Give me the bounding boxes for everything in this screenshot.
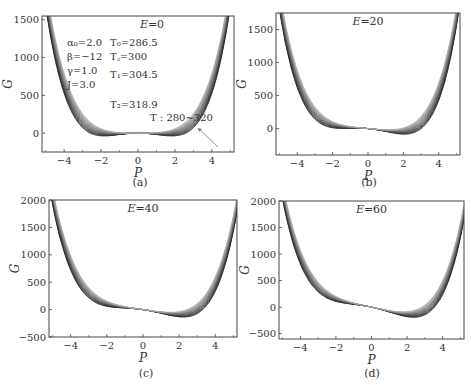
y-tick-label: 0	[33, 128, 39, 139]
figure-canvas: −4−2024050010001500PGE=0(a)α₀=2.0β=−12γ=…	[0, 0, 471, 385]
x-tick-label: −2	[94, 155, 109, 166]
panel-title: E=60	[355, 203, 387, 216]
curve-line	[279, 169, 464, 313]
x-tick-label: −4	[63, 340, 78, 351]
x-tick-label: 0	[140, 340, 146, 351]
x-tick-label: −2	[99, 340, 114, 351]
x-tick-label: 4	[436, 158, 442, 169]
x-tick-label: 0	[368, 342, 374, 353]
y-tick-label: 1000	[21, 249, 46, 260]
temperature-label: T₀=286.5	[110, 37, 158, 48]
curve-line	[49, 172, 237, 312]
y-tick-label: 1500	[21, 222, 46, 233]
x-tick-label: −4	[293, 342, 308, 353]
y-tick-label: 500	[257, 275, 276, 286]
x-tick-label: −2	[329, 342, 344, 353]
x-tick-label: 2	[172, 155, 178, 166]
temperature-label: T₂=318.9	[110, 99, 158, 110]
y-axis-label: G	[238, 265, 252, 275]
x-tick-label: 4	[439, 342, 445, 353]
y-tick-label: 1000	[248, 57, 273, 68]
parameter-label: γ=1.0	[67, 65, 97, 76]
subplot-caption: (d)	[364, 367, 380, 380]
subplot-b: −4−2024050010001500PGE=20(b)	[235, 0, 460, 189]
x-axis-label: P	[138, 351, 148, 365]
y-tick-label: 500	[254, 90, 273, 101]
temperature-range-annotation: T : 280~320	[150, 112, 213, 123]
y-tick-label: 1500	[251, 222, 276, 233]
temperature-label: T₁=304.5	[110, 69, 158, 80]
y-tick-label: 0	[270, 302, 276, 313]
x-tick-label: 4	[209, 155, 215, 166]
plot-frame	[49, 200, 237, 337]
parameter-label: β=−12	[67, 51, 102, 62]
y-tick-label: 500	[27, 277, 46, 288]
y-tick-label: 1000	[251, 249, 276, 260]
parameter-label: α₀=2.0	[67, 37, 102, 48]
y-tick-label: 1500	[14, 14, 39, 25]
x-tick-label: −4	[57, 155, 72, 166]
y-axis-label: G	[1, 79, 15, 89]
panel-title: E=20	[351, 15, 383, 28]
temperature-label: T꜀=300	[110, 51, 147, 62]
subplot-d: −4−2024−5000500100015002000PGE=60(d)	[238, 166, 464, 381]
panel-title: E=0	[139, 18, 164, 31]
x-tick-label: 2	[400, 158, 406, 169]
x-tick-label: −4	[290, 158, 305, 169]
subplot-c: −4−2024−5000500100015002000PGE=40(c)	[8, 170, 237, 380]
subplot-caption: (a)	[132, 176, 147, 189]
subplot-caption: (b)	[361, 176, 377, 189]
curve-line	[279, 168, 464, 313]
y-tick-label: 0	[267, 123, 273, 134]
y-tick-label: −500	[249, 328, 276, 339]
curve-line	[49, 173, 237, 313]
x-tick-label: 2	[404, 342, 410, 353]
y-tick-label: 0	[40, 304, 46, 315]
y-axis-label: G	[235, 79, 249, 89]
y-tick-label: −500	[19, 332, 46, 343]
y-axis-label: G	[8, 263, 22, 273]
x-tick-label: 0	[135, 155, 141, 166]
arrow-line	[198, 128, 218, 147]
plot-frame	[276, 13, 460, 155]
subplot-caption: (c)	[139, 367, 154, 380]
y-tick-label: 2000	[251, 196, 276, 207]
panel-title: E=40	[126, 202, 158, 215]
parameter-label: J=3.0	[66, 79, 95, 90]
y-tick-label: 500	[20, 90, 39, 101]
y-tick-label: 1000	[14, 52, 39, 63]
x-axis-label: P	[366, 353, 376, 367]
figure: −4−2024050010001500PGE=0(a)α₀=2.0β=−12γ=…	[0, 0, 471, 385]
curve-family	[49, 170, 237, 317]
x-tick-label: 4	[212, 340, 218, 351]
x-tick-label: 0	[365, 158, 371, 169]
subplot-a: −4−2024050010001500PGE=0(a)α₀=2.0β=−12γ=…	[1, 0, 234, 189]
y-tick-label: 2000	[21, 195, 46, 206]
x-tick-label: −2	[325, 158, 340, 169]
x-tick-label: 2	[176, 340, 182, 351]
y-tick-label: 1500	[248, 24, 273, 35]
